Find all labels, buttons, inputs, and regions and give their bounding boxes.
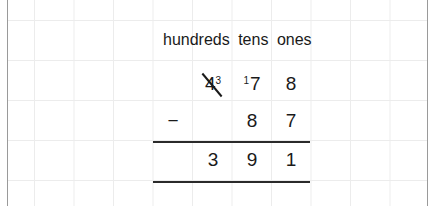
- header-ones: ones: [277, 31, 312, 48]
- subtrahend-tens: 8: [232, 110, 272, 132]
- crossed-out-digit: 4: [205, 73, 216, 95]
- header-hundreds: hundreds: [163, 31, 230, 48]
- minuend-hundreds: 4 3: [193, 73, 233, 95]
- place-value-headers: hundreds tens ones: [163, 31, 316, 49]
- difference-ones: 1: [271, 149, 311, 171]
- minuend-ones: 8: [271, 73, 311, 95]
- answer-rule: [153, 181, 310, 183]
- subtraction-rule: [153, 141, 310, 143]
- difference-tens: 9: [232, 149, 272, 171]
- minus-operator: −: [153, 110, 193, 132]
- regrouped-digit: 3: [216, 75, 222, 86]
- header-tens: tens: [238, 31, 268, 48]
- subtrahend-ones: 7: [271, 110, 311, 132]
- borrowed-one: 1: [243, 75, 249, 86]
- difference-hundreds: 3: [193, 149, 233, 171]
- minuend-tens: 17: [232, 73, 272, 95]
